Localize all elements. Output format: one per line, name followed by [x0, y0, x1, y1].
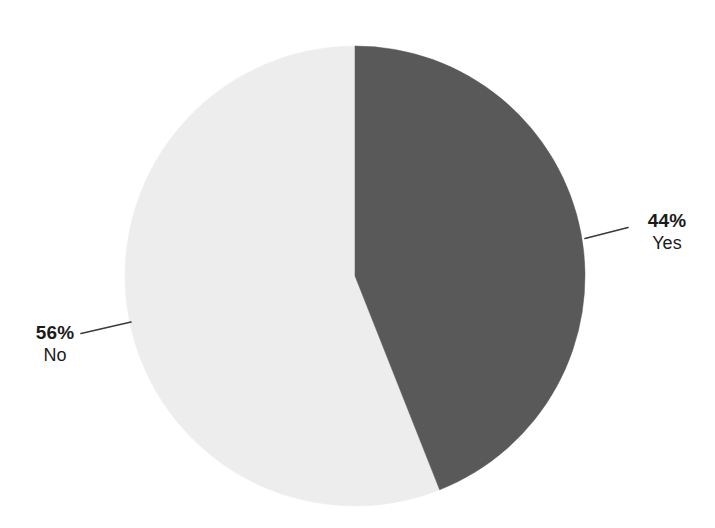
pie-label-no-name: No	[24, 345, 86, 366]
pie-label-no: 56% No	[24, 322, 86, 367]
paper-grain-texture	[125, 46, 585, 506]
pie-label-yes: 44% Yes	[637, 210, 697, 255]
pie-label-yes-name: Yes	[637, 233, 697, 254]
leader-line-yes	[585, 228, 628, 239]
pie-label-no-value: 56%	[24, 322, 86, 344]
pie-chart: 44% Yes 56% No	[0, 0, 715, 528]
leader-line-no	[81, 322, 131, 334]
pie-chart-canvas	[0, 0, 715, 528]
pie-label-yes-value: 44%	[637, 210, 697, 232]
